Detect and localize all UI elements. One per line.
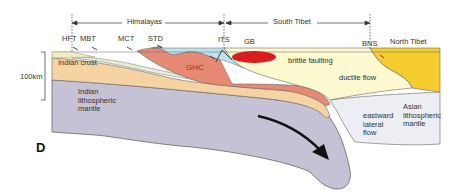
region-label-himalayas: Himalayas	[125, 18, 164, 27]
label-ghc: GHC	[186, 63, 204, 72]
label-gb: GB	[244, 38, 255, 47]
label-asian-mantle: Asian lithospheric mantle	[403, 103, 441, 129]
label-indian-crust: Indian crust	[58, 59, 97, 68]
fault-label-bns: BNS	[362, 40, 377, 49]
fault-label-mbt: MBT	[80, 35, 96, 44]
fault-label-mct: MCT	[118, 35, 134, 44]
scale-label-100km: 100km	[20, 73, 43, 82]
gb-granite-body	[232, 51, 276, 63]
fault-label-its: ITS	[218, 36, 230, 45]
tectonic-cross-section	[0, 0, 476, 194]
label-eastward-flow: eastward lateral flow	[363, 112, 393, 138]
label-ductile-flow: ductile flow	[339, 74, 376, 83]
label-north-tibet: North Tibet	[390, 38, 427, 47]
label-brittle-faulting: brittle faulting	[288, 57, 333, 66]
region-label-south-tibet: South Tibet	[271, 18, 313, 27]
panel-label: D	[36, 141, 45, 156]
label-indian-mantle: Indian lithospheric mantle	[78, 88, 116, 114]
fault-label-hft: HFT	[62, 35, 77, 44]
fault-label-std: STD	[148, 35, 163, 44]
